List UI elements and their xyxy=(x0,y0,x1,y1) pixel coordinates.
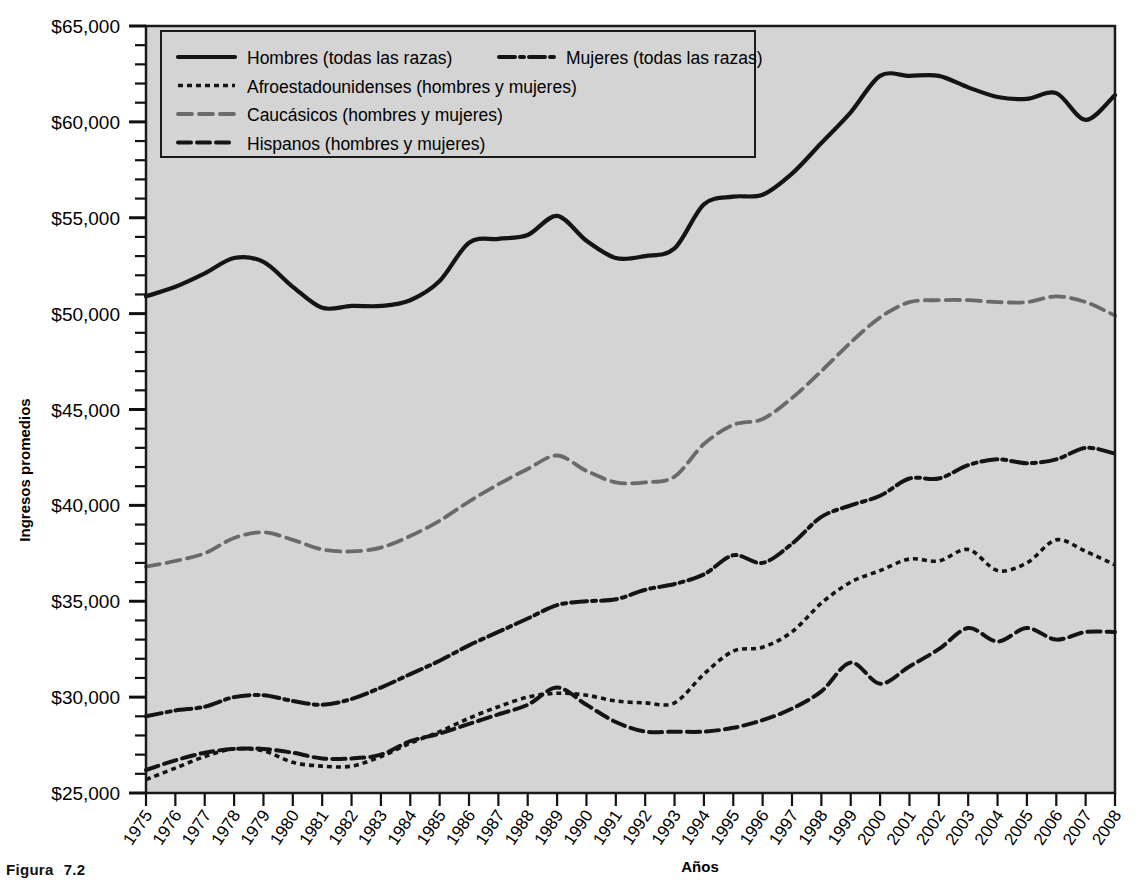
x-tick-label: 1996 xyxy=(736,807,773,849)
x-tick-label: 1992 xyxy=(619,807,656,849)
x-tick-label: 1989 xyxy=(531,807,568,849)
x-tick-label: 1985 xyxy=(413,807,450,849)
figure-caption-label: Figura xyxy=(6,861,54,878)
chart-figure: $25,000$30,000$35,000$40,000$45,000$50,0… xyxy=(0,0,1141,895)
figure-caption-number: 7.2 xyxy=(64,861,86,878)
x-tick-label: 1988 xyxy=(501,807,538,849)
y-axis: $25,000$30,000$35,000$40,000$45,000$50,0… xyxy=(51,16,146,804)
x-tick-label: 1976 xyxy=(149,807,186,849)
x-tick-label: 2007 xyxy=(1059,807,1096,849)
y-tick-label: $40,000 xyxy=(51,495,120,516)
x-tick-label: 1986 xyxy=(442,807,479,849)
y-tick-label: $55,000 xyxy=(51,208,120,229)
y-tick-label: $35,000 xyxy=(51,591,120,612)
x-tick-label: 1999 xyxy=(824,807,861,849)
legend-label: Afroestadounidenses (hombres y mujeres) xyxy=(247,77,577,97)
y-tick-label: $25,000 xyxy=(51,783,120,804)
y-tick-label: $60,000 xyxy=(51,112,120,133)
x-tick-label: 2005 xyxy=(1000,807,1037,849)
x-tick-label: 1997 xyxy=(765,807,802,849)
y-tick-label: $50,000 xyxy=(51,304,120,325)
x-tick-label: 2006 xyxy=(1030,807,1067,849)
legend-label: Hombres (todas las razas) xyxy=(247,48,452,68)
x-axis-title: Años xyxy=(681,858,719,875)
x-tick-label: 1994 xyxy=(677,807,714,849)
x-tick-label: 1979 xyxy=(237,807,274,849)
x-tick-label: 2003 xyxy=(942,807,979,849)
x-tick-label: 1995 xyxy=(707,807,744,849)
y-axis-title: Ingresos promedios xyxy=(16,398,33,541)
legend-label: Caucásicos (hombres y mujeres) xyxy=(247,105,503,125)
legend-label: Mujeres (todas las razas) xyxy=(566,48,762,68)
y-tick-label: $45,000 xyxy=(51,400,120,421)
x-tick-label: 1978 xyxy=(208,807,245,849)
x-tick-label: 1977 xyxy=(178,807,215,849)
x-axis: 1975197619771978197919801981198219831984… xyxy=(119,793,1125,849)
x-tick-label: 2002 xyxy=(912,807,949,849)
legend-label: Hispanos (hombres y mujeres) xyxy=(247,134,485,154)
x-tick-label: 2000 xyxy=(854,807,891,849)
y-tick-label: $65,000 xyxy=(51,16,120,37)
x-tick-label: 2001 xyxy=(883,807,920,849)
x-tick-label: 1981 xyxy=(296,807,333,849)
x-tick-label: 1975 xyxy=(119,807,156,849)
x-tick-label: 1983 xyxy=(354,807,391,849)
x-tick-label: 1990 xyxy=(560,807,597,849)
chart-legend: Hombres (todas las razas)Mujeres (todas … xyxy=(161,31,762,157)
x-tick-label: 1998 xyxy=(795,807,832,849)
x-tick-label: 1987 xyxy=(472,807,509,849)
x-tick-label: 1982 xyxy=(325,807,362,849)
x-tick-label: 1993 xyxy=(648,807,685,849)
x-tick-label: 1991 xyxy=(589,807,626,849)
figure-caption: Figura7.2 xyxy=(6,861,85,878)
x-tick-label: 1984 xyxy=(384,807,421,849)
x-tick-label: 2008 xyxy=(1088,807,1125,849)
x-tick-label: 2004 xyxy=(971,807,1008,849)
y-tick-label: $30,000 xyxy=(51,687,120,708)
x-tick-label: 1980 xyxy=(266,807,303,849)
